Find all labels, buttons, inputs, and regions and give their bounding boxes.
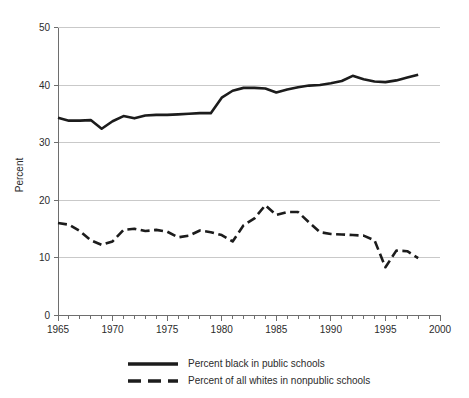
y-tick-label-0: 0 xyxy=(44,310,50,321)
x-tick-label-1995: 1995 xyxy=(374,324,397,335)
x-tick-label-1975: 1975 xyxy=(156,324,179,335)
x-tick-label-1990: 1990 xyxy=(320,324,343,335)
legend-label-1: Percent black in public schools xyxy=(188,358,325,369)
legend-label-2: Percent of all whites in nonpublic schoo… xyxy=(188,375,370,386)
y-tick-label-30: 30 xyxy=(39,137,51,148)
x-tick-label-1985: 1985 xyxy=(265,324,288,335)
y-tick-label-40: 40 xyxy=(39,80,51,91)
y-tick-label-10: 10 xyxy=(39,252,51,263)
x-tick-label-1965: 1965 xyxy=(47,324,70,335)
x-tick-label-1980: 1980 xyxy=(211,324,234,335)
chart-figure: 01020304050 1965197019751980198519901995… xyxy=(0,0,469,398)
y-axis-title: Percent xyxy=(14,158,25,193)
x-tick-label-1970: 1970 xyxy=(101,324,124,335)
y-tick-label-50: 50 xyxy=(39,22,51,33)
x-tick-label-2000: 2000 xyxy=(429,324,452,335)
chart-background xyxy=(0,0,469,398)
line-chart: 01020304050 1965197019751980198519901995… xyxy=(0,0,469,398)
y-tick-label-20: 20 xyxy=(39,195,51,206)
